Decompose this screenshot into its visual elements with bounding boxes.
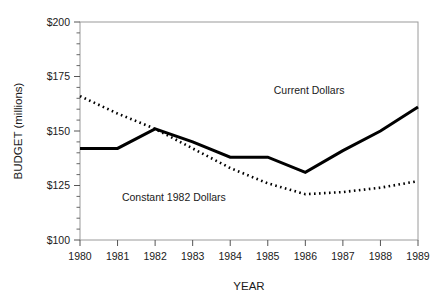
y-tick-label: $125	[47, 179, 71, 191]
x-tick-label: 1981	[106, 250, 130, 262]
x-tick-label: 1984	[219, 250, 243, 262]
series-line-2	[80, 96, 418, 194]
x-axis-title: YEAR	[233, 280, 264, 292]
plot-frame	[80, 22, 418, 240]
x-tick-label: 1985	[256, 250, 280, 262]
x-tick-label: 1983	[181, 250, 205, 262]
x-axis-ticks	[80, 240, 418, 246]
y-axis-tick-labels: $100$125$150$175$200	[47, 16, 71, 246]
x-tick-label: 1987	[331, 250, 355, 262]
y-axis-ticks	[74, 22, 80, 240]
y-tick-label: $100	[47, 234, 71, 246]
y-tick-label: $175	[47, 70, 71, 82]
x-tick-label: 1988	[369, 250, 393, 262]
x-tick-label: 1980	[68, 250, 92, 262]
y-axis-title: BUDGET (millions)	[12, 82, 24, 179]
y-tick-label: $200	[47, 16, 71, 28]
x-axis-tick-labels: 1980198119821983198419851986198719881989	[68, 250, 430, 262]
line-chart-canvas: $100$125$150$175$200 1980198119821983198…	[0, 0, 444, 301]
x-tick-label: 1989	[406, 250, 430, 262]
y-tick-label: $150	[47, 125, 71, 137]
series-line-1	[80, 107, 418, 172]
series-annotations: Current DollarsConstant 1982 Dollars	[122, 84, 344, 203]
data-series-layer	[80, 96, 418, 194]
series-label-1: Current Dollars	[274, 84, 345, 96]
chart-figure: $100$125$150$175$200 1980198119821983198…	[0, 0, 444, 301]
x-tick-label: 1982	[143, 250, 167, 262]
series-label-2: Constant 1982 Dollars	[122, 191, 226, 203]
plot-area-border	[80, 22, 418, 240]
x-tick-label: 1986	[294, 250, 318, 262]
